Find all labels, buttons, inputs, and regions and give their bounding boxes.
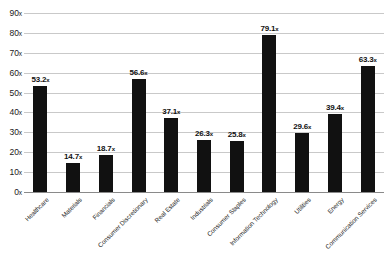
x-axis-tick-label: Real Estate [153,196,181,224]
bar-chart: 0x10x20x30x40x50x60x70x80x90x 53.2x14.7x… [0,0,392,257]
x-axis-tick-label: Healthcare [24,196,50,222]
x-axis-category-labels: HealthcareMaterialsFinancialsConsumer Di… [0,0,392,257]
x-axis-tick-label: Utilities [293,196,312,215]
x-axis-tick-label: Materials [60,196,83,219]
x-axis-tick-label: Financials [91,196,116,221]
x-axis-tick-label: Industrials [189,196,214,221]
x-axis-tick-label: Energy [326,196,345,215]
